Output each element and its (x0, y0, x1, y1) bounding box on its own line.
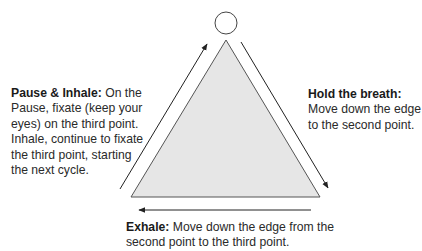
hold-breath-heading: Hold the breath: (308, 87, 401, 101)
pause-inhale-heading: Pause & Inhale: (11, 86, 102, 100)
exhale-heading: Exhale: (126, 220, 169, 234)
pause-inhale-label: Pause & Inhale: On the Pause, fixate (ke… (11, 86, 146, 178)
pause-inhale-text-1: On the (102, 86, 142, 100)
hold-breath-label: Hold the breath: Move down the edge to t… (308, 87, 422, 133)
top-point-circle (215, 12, 237, 34)
triangle-shape (131, 40, 320, 197)
pause-inhale-text-2: Pause, fixate (keep your eyes) on the th… (11, 101, 143, 177)
exhale-label: Exhale: Move down the edge from the seco… (126, 220, 346, 251)
hold-breath-text: Move down the edge to the second point. (308, 102, 421, 131)
